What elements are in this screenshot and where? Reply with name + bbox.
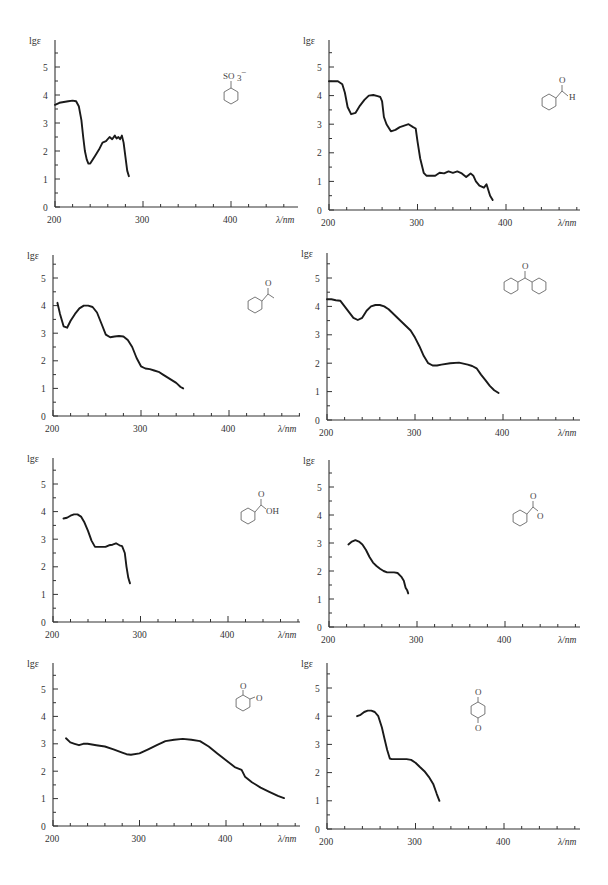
svg-text:O: O [258,489,265,499]
y-tick-label: 2 [41,356,46,366]
x-tick-label: 400 [223,215,238,225]
y-tick-label: 3 [43,119,48,129]
y-tick-label: 4 [41,301,46,311]
x-tick-label: 200 [45,630,60,640]
y-tick-label: 0 [317,206,322,216]
molecule-structure-acetophenone: O [248,278,274,313]
chart-acetophenone: 012345200300400lgελ/nmO [27,250,300,434]
chart-benzoate: 012345200300400lgελ/nmOO [303,455,580,645]
molecule-structure-benzoate: OO [513,491,544,526]
y-tick-label: 1 [315,796,320,806]
y-tick-label: 1 [41,384,46,394]
structure-label: O [475,687,482,697]
spectrum-curve [348,540,408,593]
y-tick-label: 5 [43,63,48,73]
y-tick-label: 1 [41,794,46,804]
y-tick-label: 3 [41,739,46,749]
x-tick-label: 400 [221,424,236,434]
y-tick-label: 3 [41,535,46,545]
y-tick-label: 1 [315,387,320,397]
x-tick-label: 300 [132,834,147,844]
y-tick-label: 5 [41,274,46,284]
y-tick-label: 1 [317,177,322,187]
quinone-ring-icon [236,695,250,711]
x-tick-label: 200 [45,834,60,844]
spectrum-curve [57,303,183,389]
x-axis-label: λ/nm [277,630,297,640]
y-tick-label: 5 [315,274,320,284]
x-axis-label: λ/nm [277,834,297,844]
spectrum-curve [329,81,493,200]
benzene-ring-icon [504,278,518,294]
x-tick-label: 300 [135,215,150,225]
x-tick-label: 300 [133,630,148,640]
y-tick-label: 2 [315,359,320,369]
x-tick-label: 300 [133,424,148,434]
x-axis-label: λ/nm [557,218,577,228]
x-tick-label: 400 [498,218,513,228]
spectrum-curve [66,738,284,798]
y-tick-label: 3 [317,539,322,549]
x-tick-label: 200 [45,424,60,434]
svg-text:O: O [256,693,263,703]
y-tick-label: 4 [317,91,322,101]
x-tick-label: 300 [410,218,425,228]
structure-label: O [240,681,247,691]
molecule-structure-benzaldehyde: OH [542,75,576,110]
y-tick-label: 0 [41,412,46,422]
benzene-ring-icon [224,88,238,104]
y-tick-label: 4 [315,712,320,722]
chart-benzenesulfonate: 012345200300400lgελ/nmSO3− [29,35,298,225]
quinone-ring-icon [471,702,485,718]
benzene-ring-icon [241,508,255,524]
x-tick-label: 200 [321,218,336,228]
y-tick-label: 2 [41,767,46,777]
y-tick-label: 0 [317,623,322,633]
y-tick-label: 4 [41,712,46,722]
molecule-structure-benzophenone: O [504,261,546,294]
svg-text:O: O [475,723,482,733]
x-tick-label: 400 [497,635,512,645]
x-axis-label: λ/nm [557,428,577,438]
y-tick-label: 0 [41,822,46,832]
x-tick-label: 300 [407,428,422,438]
molecule-structure-benzoic-acid: OOH [241,489,279,524]
x-tick-label: 200 [47,215,62,225]
spectrum-curve [55,101,129,177]
x-tick-label: 300 [408,837,423,847]
chart-o-benzoquinone: 012345200300400lgελ/nmOO [27,658,300,844]
spectrum-curve [64,514,131,583]
x-tick-label: 400 [496,837,511,847]
chart-benzoic-acid: 012345200300400lgελ/nmOOH [27,453,300,640]
molecule-structure-benzenesulfonate: SO3− [223,67,246,104]
x-axis-label: λ/nm [557,635,577,645]
y-tick-label: 5 [315,684,320,694]
benzene-ring-icon [542,94,556,110]
svg-text:−: − [241,67,246,77]
y-tick-label: 0 [315,825,320,835]
y-tick-label: 3 [315,740,320,750]
svg-text:O: O [559,75,566,85]
svg-text:O: O [265,278,272,288]
x-tick-label: 300 [409,635,424,645]
chart-p-benzoquinone: 012345200300400lgελ/nmOO [301,658,580,847]
y-axis-label: lgε [27,658,39,669]
x-tick-label: 400 [218,834,233,844]
benzene-ring-icon [532,278,546,294]
y-tick-label: 1 [43,175,48,185]
y-axis-label: lgε [303,35,315,46]
benzene-ring-icon [248,297,262,313]
structure-label: SO [223,71,235,81]
structure-label: OH [266,506,279,516]
y-tick-label: 2 [43,147,48,157]
structure-label: O [537,511,544,521]
y-axis-label: lgε [301,248,313,259]
molecule-structure-o-benzoquinone: OO [236,681,263,711]
y-tick-label: 0 [43,203,48,213]
x-axis-label: λ/nm [275,215,295,225]
y-tick-label: 4 [41,507,46,517]
benzene-ring-icon [513,510,527,526]
spectra-figure: 012345200300400lgελ/nmSO3−01234520030040… [0,0,608,885]
y-axis-label: lgε [301,658,313,669]
structure-label: O [522,261,529,271]
